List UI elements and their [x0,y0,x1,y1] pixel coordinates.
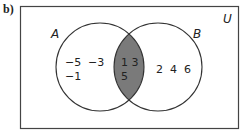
set-b-label: B [193,27,201,41]
element-b-2-4-6: 2 4 6 [156,63,191,76]
element-a-neg1: −1 [65,70,81,83]
element-intersection-1-3: 1 3 [121,56,139,69]
venn-diagram: U A B −5 −3 −1 1 3 5 2 4 6 [0,0,243,132]
element-a-neg3: −3 [88,56,104,69]
element-a-neg5: −5 [65,56,81,69]
universal-label: U [223,12,232,26]
element-intersection-5: 5 [121,70,128,83]
set-a-label: A [50,27,59,41]
